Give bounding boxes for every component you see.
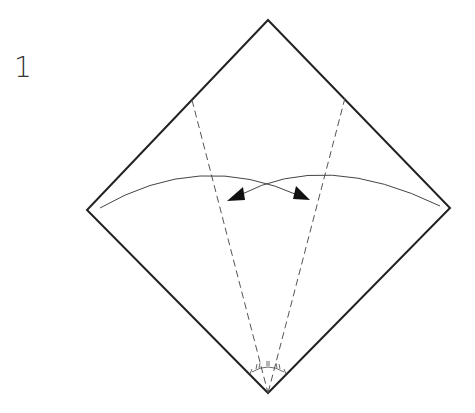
valley-fold-right [268, 98, 345, 393]
fold-arrow-right-to-left [240, 175, 440, 206]
origami-diagram [0, 0, 475, 413]
angle-marks [250, 361, 286, 374]
arrowhead-right-icon [293, 186, 310, 200]
valley-fold-left [192, 100, 268, 393]
fold-arrow-left-to-right [100, 176, 300, 208]
arrowhead-left-icon [227, 187, 245, 201]
paper-square [87, 20, 450, 393]
